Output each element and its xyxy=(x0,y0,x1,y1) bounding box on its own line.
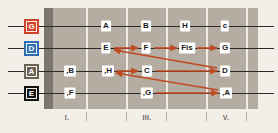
note-a-fret3[interactable]: C xyxy=(142,66,152,77)
fretboard-diagram: G D A E ABHcEFFisG,B,HCD,F,G,A I.III.V. xyxy=(0,0,278,133)
string-label-g: G xyxy=(24,19,39,34)
note-d-fret3[interactable]: F xyxy=(142,43,151,54)
note-a-fret1[interactable]: ,B xyxy=(64,66,76,77)
fret-marker-III: III. xyxy=(143,114,152,121)
note-e-fret3[interactable]: ,G xyxy=(141,88,153,99)
note-e-fret1[interactable]: ,F xyxy=(64,88,75,99)
string-label-d-text: D xyxy=(26,43,37,54)
fret-tick-4 xyxy=(206,112,207,121)
string-label-g-text: G xyxy=(26,21,37,32)
fret-marker-I: I. xyxy=(65,114,70,121)
fret-marker-V: V. xyxy=(223,114,230,121)
string-label-a: A xyxy=(24,64,39,79)
string-line-a xyxy=(8,71,274,72)
note-g-fret2[interactable]: A xyxy=(101,21,111,32)
string-label-e-text: E xyxy=(26,88,37,99)
fret-tick-1 xyxy=(86,112,87,121)
note-d-fret4[interactable]: Fis xyxy=(179,43,195,54)
string-label-a-text: A xyxy=(26,66,37,77)
fret-tick-3 xyxy=(166,112,167,121)
fret-tick-5 xyxy=(246,112,247,121)
note-a-fret5[interactable]: D xyxy=(220,66,230,77)
note-g-fret3[interactable]: B xyxy=(141,21,151,32)
note-a-fret2[interactable]: ,H xyxy=(102,66,114,77)
fret-tick-2 xyxy=(126,112,127,121)
note-d-fret5[interactable]: G xyxy=(220,43,230,54)
note-g-fret4[interactable]: H xyxy=(180,21,190,32)
note-d-fret2[interactable]: E xyxy=(101,43,110,54)
string-label-d: D xyxy=(24,41,39,56)
note-e-fret5[interactable]: ,A xyxy=(220,88,232,99)
note-g-fret5[interactable]: c xyxy=(221,21,229,32)
string-label-e: E xyxy=(24,86,39,101)
